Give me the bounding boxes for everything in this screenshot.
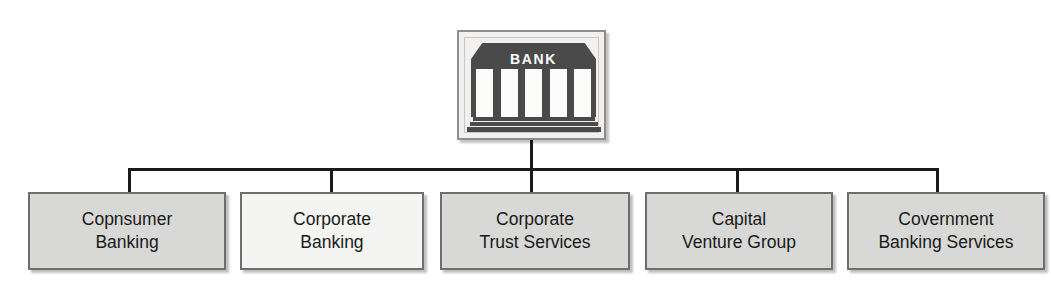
bank-icon-frame: BANK	[464, 37, 599, 133]
bank-column	[574, 69, 591, 117]
org-node-label: Capital Venture Group	[682, 208, 796, 254]
bank-label: BANK	[510, 47, 557, 66]
connector-drop	[128, 168, 131, 192]
bank-step	[473, 117, 595, 121]
org-node-label: Covernment Banking Services	[878, 208, 1013, 254]
connector-stem	[530, 140, 533, 168]
org-node-label: Corporate Trust Services	[479, 208, 590, 254]
bank-step	[470, 122, 598, 126]
connector-drop	[530, 168, 533, 192]
org-node-consumer-banking[interactable]: Copnsumer Banking	[28, 192, 226, 270]
org-node-corporate-banking[interactable]: Corporate Banking	[240, 192, 424, 270]
org-node-label: Copnsumer Banking	[82, 208, 172, 254]
bank-column	[550, 69, 567, 117]
bank-building-icon[interactable]: BANK	[457, 30, 606, 140]
bank-steps	[468, 117, 599, 134]
bank-column	[525, 69, 542, 117]
connector-drop	[936, 168, 939, 192]
bank-column	[476, 69, 493, 117]
org-node-corporate-trust-services[interactable]: Corporate Trust Services	[440, 192, 630, 270]
bank-column	[501, 69, 518, 117]
connector-drop	[330, 168, 333, 192]
org-chart-canvas: BANK Copnsumer Banking	[0, 0, 1051, 289]
connector-drop	[736, 168, 739, 192]
connector-horizontal-bus	[128, 168, 939, 171]
bank-step	[467, 127, 601, 132]
bank-pediment: BANK	[471, 43, 596, 69]
org-node-government-banking-services[interactable]: Covernment Banking Services	[847, 192, 1045, 270]
bank-columns	[471, 69, 596, 117]
org-node-label: Corporate Banking	[293, 208, 371, 254]
org-node-capital-venture-group[interactable]: Capital Venture Group	[645, 192, 833, 270]
